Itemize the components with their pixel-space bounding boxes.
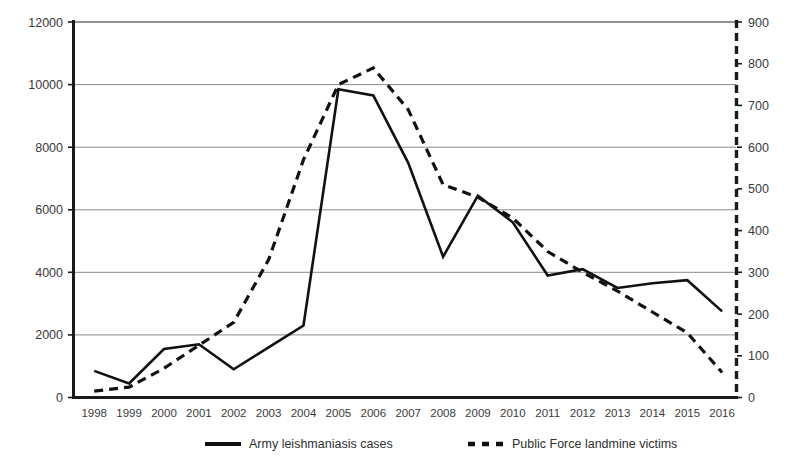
x-axis-tick-label: 2014 <box>640 407 666 419</box>
x-axis-tick-label: 2008 <box>430 407 456 419</box>
legend-label: Public Force landmine victims <box>512 437 677 451</box>
left-axis-tick-label: 0 <box>56 391 63 405</box>
x-axis-tick-label: 2011 <box>535 407 560 419</box>
x-axis-tick-label: 2009 <box>465 407 491 419</box>
x-axis-tick-label: 2013 <box>605 407 631 419</box>
right-axis-tick-label: 600 <box>748 141 769 155</box>
chart-container: 020004000600080001000012000 010020030040… <box>0 0 798 466</box>
right-axis-tick-label: 100 <box>748 349 769 363</box>
right-axis-tick-label: 200 <box>748 308 769 322</box>
x-axis-tick-label: 2001 <box>186 407 212 419</box>
left-axis-tick-label: 2000 <box>35 328 63 342</box>
right-axis-tick-label: 900 <box>748 16 769 30</box>
x-axis-tick-label: 1999 <box>116 407 142 419</box>
x-axis-tick-label: 2006 <box>361 407 387 419</box>
right-axis-tick-label: 400 <box>748 224 769 238</box>
x-axis-tick-label: 2000 <box>151 407 177 419</box>
x-axis-tick-label: 1998 <box>81 407 107 419</box>
right-axis-tick-label: 800 <box>748 57 769 71</box>
x-axis-tick-label: 2010 <box>500 407 526 419</box>
x-axis-tick-label: 2007 <box>395 407 421 419</box>
line-chart: 020004000600080001000012000 010020030040… <box>0 0 798 466</box>
x-axis-tick-label: 2016 <box>709 407 735 419</box>
left-axis-tick-label: 10000 <box>28 78 63 92</box>
right-axis-tick-label: 0 <box>748 391 755 405</box>
left-axis-tick-label: 8000 <box>35 141 63 155</box>
right-axis-tick-label: 500 <box>748 182 769 196</box>
x-axis-tick-label: 2002 <box>221 407 247 419</box>
left-axis-tick-label: 6000 <box>35 203 63 217</box>
x-axis-tick-label: 2004 <box>291 407 317 419</box>
x-axis-tick-label: 2012 <box>570 407 596 419</box>
right-axis-tick-label: 300 <box>748 266 769 280</box>
right-axis-tick-label: 700 <box>748 99 769 113</box>
legend-label: Army leishmaniasis cases <box>249 437 393 451</box>
x-axis-tick-label: 2015 <box>675 407 701 419</box>
x-axis-tick-label: 2003 <box>256 407 282 419</box>
left-axis-tick-label: 4000 <box>35 266 63 280</box>
x-axis-tick-label: 2005 <box>326 407 352 419</box>
left-axis-tick-label: 12000 <box>28 16 63 30</box>
